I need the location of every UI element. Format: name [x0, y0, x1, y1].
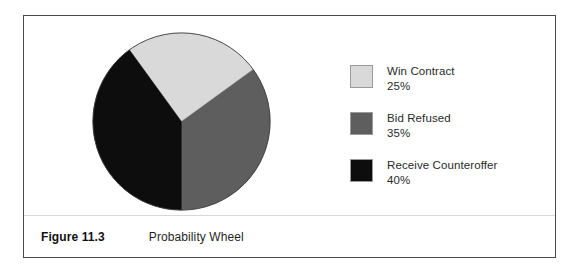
legend-text-receive-counteroffer: Receive Counteroffer 40% — [387, 158, 497, 187]
caption-number: Figure 11.3 — [41, 230, 105, 244]
legend-swatch-receive-counteroffer — [350, 159, 373, 182]
legend-item-receive-counteroffer: Receive Counteroffer 40% — [350, 158, 540, 187]
pie-slices — [93, 33, 270, 210]
legend-swatch-win-contract — [350, 65, 373, 88]
pie-chart — [92, 32, 271, 211]
legend-label-bid-refused: Bid Refused — [387, 111, 451, 126]
legend-value-win-contract: 25% — [387, 79, 455, 94]
legend-label-win-contract: Win Contract — [387, 64, 455, 79]
legend-value-bid-refused: 35% — [387, 126, 451, 141]
caption-title: Probability Wheel — [149, 230, 244, 244]
legend-item-win-contract: Win Contract 25% — [350, 64, 540, 93]
legend-value-receive-counteroffer: 40% — [387, 173, 497, 188]
legend-swatch-bid-refused — [350, 112, 373, 135]
figure-body: Win Contract 25% Bid Refused 35% Receive… — [24, 16, 555, 215]
legend-text-bid-refused: Bid Refused 35% — [387, 111, 451, 140]
legend-label-receive-counteroffer: Receive Counteroffer — [387, 158, 497, 173]
legend-item-bid-refused: Bid Refused 35% — [350, 111, 540, 140]
legend-text-win-contract: Win Contract 25% — [387, 64, 455, 93]
figure-caption: Figure 11.3 Probability Wheel — [24, 216, 555, 257]
figure-frame: Win Contract 25% Bid Refused 35% Receive… — [23, 15, 556, 258]
legend: Win Contract 25% Bid Refused 35% Receive… — [350, 64, 540, 187]
